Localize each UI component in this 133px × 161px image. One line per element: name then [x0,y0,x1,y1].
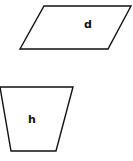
parallelogram-shape [20,6,131,49]
trapezoid-shape [0,87,73,151]
diagram-canvas: d h [0,0,133,161]
parallelogram-label: d [84,18,92,31]
trapezoid-label: h [28,113,36,126]
parallelogram-d: d [20,6,131,49]
trapezoid-h: h [0,87,73,151]
